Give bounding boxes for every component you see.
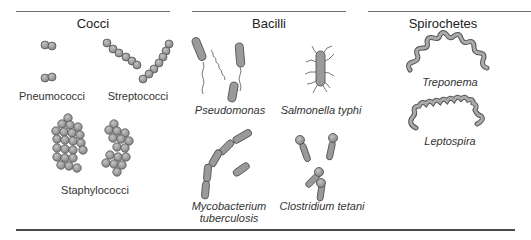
clostridium-icon [296,134,338,202]
streptococci-icon [103,39,173,83]
mycobacterium-icon [201,128,252,199]
leptospira-icon [411,97,483,128]
salmonella-label: Salmonella typhi [276,104,366,116]
treponema-icon [409,33,487,71]
staphylococci-icon [52,114,133,176]
pseudomonas-icon [191,36,245,102]
treponema-label: Treponema [410,76,490,88]
salmonella-icon [305,46,334,93]
pneumococci-icon [41,41,56,82]
streptococci-label: Streptococci [98,90,178,102]
bottom-rule [16,229,515,231]
clostridium-label: Clostridium tetani [272,200,372,212]
leptospira-label: Leptospira [410,135,490,147]
pseudomonas-label: Pseudomonas [190,104,270,116]
mycobacterium-label-line2: tuberculosis [184,212,274,224]
staphylococci-label: Staphylococci [50,184,140,196]
pneumococci-label: Pneumococci [12,90,92,102]
mycobacterium-label-line1: Mycobacterium [184,200,274,212]
